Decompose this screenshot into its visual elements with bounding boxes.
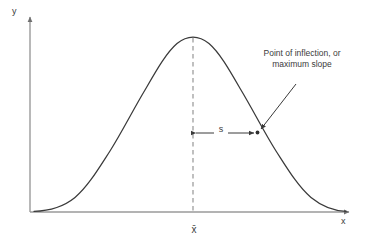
normal-distribution-curve	[34, 37, 346, 211]
plot-canvas	[0, 0, 366, 248]
bell-curve-figure: y x x̄ s Point of inflection, or maximum…	[0, 0, 366, 248]
annotation-leader-line	[261, 84, 296, 129]
inflection-point-marker	[256, 131, 260, 135]
